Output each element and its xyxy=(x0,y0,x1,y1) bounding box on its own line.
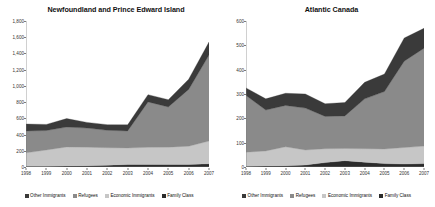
x-axis-tick-label: 2003 xyxy=(340,171,350,176)
x-axis-tick-label: 2006 xyxy=(399,171,409,176)
legend-swatch-icon xyxy=(162,194,166,198)
legend-swatch-icon xyxy=(379,194,383,198)
x-axis-tick-mark xyxy=(66,168,67,170)
legend-label: Economic Immigrants xyxy=(110,193,154,199)
legend-label: Family Class xyxy=(385,193,411,199)
x-axis-tick-mark xyxy=(404,168,405,170)
legend-label: Refugees xyxy=(296,193,316,199)
x-axis-tick-label: 2007 xyxy=(419,171,429,176)
y-axis-tick-label: 100 xyxy=(236,140,244,145)
plot-area-right xyxy=(246,21,424,167)
x-axis-tick-label: 1998 xyxy=(21,171,31,176)
x-axis-tick-label: 2000 xyxy=(62,171,72,176)
y-axis-tick-label: 200 xyxy=(236,116,244,121)
x-axis-tick-label: 2004 xyxy=(143,171,153,176)
x-axis-tick-label: 1999 xyxy=(261,171,271,176)
x-axis-tick-label: 2000 xyxy=(281,171,291,176)
y-axis-tick-label: 1,600 xyxy=(13,35,25,40)
x-axis-tick-mark xyxy=(305,168,306,170)
x-axis-tick-mark xyxy=(344,168,345,170)
legend-item-economic-immigrants: Economic Immigrants xyxy=(322,193,372,199)
y-axis-tick-label: 1,200 xyxy=(13,67,25,72)
y-axis-tick-label: 1,400 xyxy=(13,51,25,56)
legend-item-economic-immigrants: Economic Immigrants xyxy=(105,193,155,199)
y-axis-tick-label: 600 xyxy=(236,19,244,24)
legend-item-other-immigrants: Other Immigrants xyxy=(25,193,66,199)
x-axis-tick-label: 1998 xyxy=(241,171,251,176)
x-axis-tick-mark xyxy=(148,168,149,170)
y-axis-tick-label: 200 xyxy=(16,148,24,153)
y-axis-tick-label: 300 xyxy=(236,92,244,97)
legend-item-family-class: Family Class xyxy=(162,193,194,199)
y-axis-right: 0100200300400500600 xyxy=(218,21,244,167)
y-axis-tick-label: 1,800 xyxy=(13,19,25,24)
x-axis-tick-mark xyxy=(87,168,88,170)
legend-swatch-icon xyxy=(73,194,77,198)
area-chart-svg-right xyxy=(246,21,424,167)
x-axis-tick-label: 2005 xyxy=(379,171,389,176)
x-axis-tick-label: 2003 xyxy=(123,171,133,176)
x-axis-tick-label: 2001 xyxy=(300,171,310,176)
x-axis-tick-mark xyxy=(168,168,169,170)
figure-two-stacked-area-charts: Newfoundland and Prince Edward Island 02… xyxy=(0,0,435,207)
x-axis-right: 1998199920002001200220032004200520062007 xyxy=(246,168,424,180)
legend-label: Other Immigrants xyxy=(248,193,283,199)
y-axis-tick-label: 800 xyxy=(16,100,24,105)
x-axis-tick-mark xyxy=(265,168,266,170)
x-axis-tick-mark xyxy=(188,168,189,170)
legend-label: Economic Immigrants xyxy=(328,193,372,199)
y-axis-tick-label: 400 xyxy=(16,132,24,137)
x-axis-tick-label: 2006 xyxy=(184,171,194,176)
x-axis-left: 1998199920002001200220032004200520062007 xyxy=(26,168,209,180)
legend-swatch-icon xyxy=(25,194,29,198)
legend-item-other-immigrants: Other Immigrants xyxy=(242,193,283,199)
y-axis-tick-label: 1,000 xyxy=(13,83,25,88)
x-axis-tick-mark xyxy=(26,168,27,170)
legend-swatch-icon xyxy=(290,194,294,198)
x-axis-tick-mark xyxy=(285,168,286,170)
x-axis-tick-mark xyxy=(424,168,425,170)
legend-item-family-class: Family Class xyxy=(379,193,411,199)
x-axis-tick-mark xyxy=(127,168,128,170)
legend-label: Other Immigrants xyxy=(30,193,65,199)
legend-swatch-icon xyxy=(105,194,109,198)
legend-item-refugees: Refugees xyxy=(290,193,315,199)
x-axis-tick-label: 2005 xyxy=(163,171,173,176)
legend-label: Refugees xyxy=(78,193,98,199)
y-axis-tick-label: 400 xyxy=(236,67,244,72)
y-axis-left: 02004006008001,0001,2001,4001,6001,800 xyxy=(0,21,24,167)
x-axis-tick-label: 1999 xyxy=(41,171,51,176)
area-series-refugees xyxy=(26,55,209,153)
x-axis-tick-mark xyxy=(246,168,247,170)
x-axis-tick-label: 2004 xyxy=(360,171,370,176)
x-axis-tick-label: 2002 xyxy=(320,171,330,176)
page-title: Atlantic Canada xyxy=(218,5,435,15)
chart-panel-atlantic-canada: Atlantic Canada 0100200300400500600 1998… xyxy=(218,0,435,207)
x-axis-tick-label: 2002 xyxy=(102,171,112,176)
plot-area-left xyxy=(26,21,209,167)
legend-right: Other Immigrants Refugees Economic Immig… xyxy=(218,193,435,199)
y-axis-tick-label: 500 xyxy=(236,43,244,48)
x-axis-tick-mark xyxy=(46,168,47,170)
page-title: Newfoundland and Prince Edward Island xyxy=(0,5,218,15)
chart-panel-newfoundland-pei: Newfoundland and Prince Edward Island 02… xyxy=(0,0,218,207)
x-axis-tick-label: 2001 xyxy=(82,171,92,176)
legend-left: Other Immigrants Refugees Economic Immig… xyxy=(0,193,218,199)
legend-label: Family Class xyxy=(167,193,193,199)
legend-swatch-icon xyxy=(242,194,246,198)
legend-item-refugees: Refugees xyxy=(73,193,98,199)
area-chart-svg-left xyxy=(26,21,209,167)
x-axis-tick-label: 2007 xyxy=(204,171,214,176)
x-axis-tick-mark xyxy=(107,168,108,170)
x-axis-tick-mark xyxy=(364,168,365,170)
x-axis-tick-mark xyxy=(325,168,326,170)
y-axis-tick-label: 600 xyxy=(16,116,24,121)
x-axis-tick-mark xyxy=(209,168,210,170)
x-axis-tick-mark xyxy=(384,168,385,170)
legend-swatch-icon xyxy=(322,194,326,198)
